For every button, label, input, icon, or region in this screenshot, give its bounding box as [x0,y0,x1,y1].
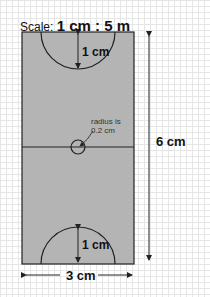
scale-ratio: 1 cm : 5 m [57,17,130,34]
note-line-2: 0.2 cm [91,126,121,135]
note-line-1: radius is [91,117,121,126]
scale-label: Scale: 1 cm : 5 m [20,17,130,34]
top-arc-label: 1 cm [82,45,109,59]
height-label: 6 cm [156,134,186,149]
width-label: 3 cm [66,268,96,283]
scale-prefix: Scale: [20,20,53,34]
bottom-arc-label: 1 cm [82,238,109,252]
center-radius-note: radius is 0.2 cm [91,117,121,135]
